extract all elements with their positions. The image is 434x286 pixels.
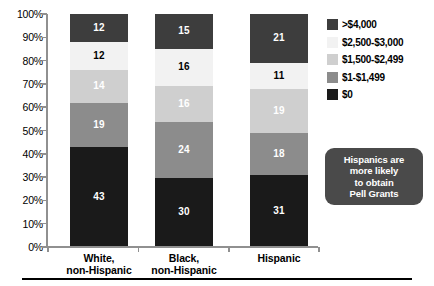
x-axis-category-label-line: non-Hispanic	[134, 265, 234, 277]
legend-swatch-icon	[327, 37, 338, 48]
y-axis-tick-label: 50%	[23, 125, 43, 137]
y-axis-tick-mark	[42, 106, 47, 108]
bar-segment-value: 24	[178, 145, 189, 155]
legend-item-label: >$4,000	[342, 19, 377, 30]
bar-segment-value: 14	[93, 81, 104, 91]
legend-item[interactable]: $1,500-$2,499	[327, 51, 434, 69]
x-axis-tick-mark	[47, 247, 49, 252]
legend-swatch-icon	[327, 19, 338, 30]
legend-item-label: $1-$1,499	[342, 72, 385, 83]
x-axis-line	[46, 246, 318, 248]
bar-segment: 16	[155, 49, 213, 86]
bar-segment-value: 12	[93, 23, 104, 33]
callout-box: Hispanics aremore likelyto obtainPell Gr…	[325, 148, 423, 205]
bar-segment-value: 16	[178, 62, 189, 72]
bar-segment: 19	[250, 89, 308, 133]
stacked-bar-chart: 100%90%80%70%60%50%40%30%20%10%0% 121214…	[0, 0, 434, 286]
bar-segment-value: 30	[178, 207, 189, 217]
y-axis-tick-mark	[42, 223, 47, 225]
bar-segment: 19	[70, 103, 128, 147]
legend-item-label: $1,500-$2,499	[342, 54, 403, 65]
bar-segment: 15	[155, 14, 213, 49]
x-axis-category-label: Black,non-Hispanic	[134, 253, 234, 276]
legend: >$4,000$2,500-$3,000$1,500-$2,499$1-$1,4…	[327, 16, 434, 104]
legend-swatch-icon	[327, 54, 338, 65]
bar-segment: 43	[70, 147, 128, 247]
callout-line: Hispanics are	[344, 154, 404, 166]
bar-segment-value: 19	[93, 120, 104, 130]
bar-segment-value: 12	[93, 51, 104, 61]
callout-line: Pell Grants	[349, 188, 398, 200]
y-axis-tick-label: 20%	[23, 194, 43, 206]
bar-segment: 16	[155, 86, 213, 123]
y-axis-tick-label: 100%	[17, 8, 43, 20]
legend-swatch-icon	[327, 89, 338, 100]
bar-column: 2111191831	[250, 14, 308, 247]
bar-stack: 1212141943	[70, 14, 128, 247]
legend-item[interactable]: $1-$1,499	[327, 69, 434, 87]
bar-segment: 30	[155, 178, 213, 247]
y-axis-tick-mark	[42, 176, 47, 178]
y-axis-tick-label: 0%	[28, 241, 43, 253]
y-axis-tick-label: 90%	[23, 31, 43, 43]
legend-item[interactable]: $2,500-$3,000	[327, 34, 434, 52]
bar-segment-value: 15	[178, 26, 189, 36]
plot-area: 121214194315161624302111191831	[47, 14, 318, 247]
bar-stack: 2111191831	[250, 14, 308, 247]
x-axis-tick-mark	[138, 247, 140, 252]
y-axis-tick-labels: 100%90%80%70%60%50%40%30%20%10%0%	[0, 14, 43, 246]
bar-segment-value: 19	[273, 106, 284, 116]
y-axis-tick-label: 70%	[23, 78, 43, 90]
bar-segment: 21	[250, 14, 308, 63]
bar-segment-value: 16	[178, 99, 189, 109]
bar-segment-value: 31	[273, 206, 284, 216]
x-axis-category-label-line: Hispanic	[229, 253, 329, 265]
y-axis-tick-mark	[42, 130, 47, 132]
x-axis-tick-mark	[228, 247, 230, 252]
y-axis-tick-label: 80%	[23, 55, 43, 67]
y-axis-tick-mark	[42, 13, 47, 15]
bar-column: 1212141943	[70, 14, 128, 247]
bar-segment: 14	[70, 70, 128, 103]
y-axis-tick-mark	[42, 200, 47, 202]
legend-item-label: $0	[342, 89, 353, 100]
x-axis-category-label: Hispanic	[229, 253, 329, 265]
y-axis-tick-label: 60%	[23, 101, 43, 113]
legend-item-label: $2,500-$3,000	[342, 37, 403, 48]
bar-segment: 12	[70, 14, 128, 42]
bar-segment-value: 11	[274, 71, 285, 81]
legend-item[interactable]: $0	[327, 86, 434, 104]
callout-line: more likely	[350, 165, 399, 177]
x-axis-tick-mark	[318, 247, 320, 252]
y-axis-tick-mark	[42, 153, 47, 155]
x-axis-category-label-line: Black,	[134, 253, 234, 265]
bar-column: 1516162430	[155, 14, 213, 247]
bar-segment: 12	[70, 42, 128, 70]
callout-line: to obtain	[354, 177, 393, 189]
bar-segment: 31	[250, 175, 308, 247]
y-axis-tick-mark	[42, 83, 47, 85]
legend-item[interactable]: >$4,000	[327, 16, 434, 34]
bar-stack: 1516162430	[155, 14, 213, 247]
bar-segment: 18	[250, 133, 308, 175]
bar-segment-value: 18	[273, 149, 284, 159]
bottom-divider	[22, 278, 412, 280]
y-axis-tick-label: 30%	[23, 171, 43, 183]
bar-segment-value: 21	[273, 33, 284, 43]
bar-segment: 11	[250, 63, 308, 89]
y-axis-tick-label: 10%	[23, 218, 43, 230]
y-axis-tick-label: 40%	[23, 148, 43, 160]
y-axis-tick-mark	[42, 60, 47, 62]
legend-swatch-icon	[327, 72, 338, 83]
y-axis-tick-mark	[42, 37, 47, 39]
bar-segment: 24	[155, 122, 213, 177]
bar-segment-value: 43	[93, 192, 104, 202]
